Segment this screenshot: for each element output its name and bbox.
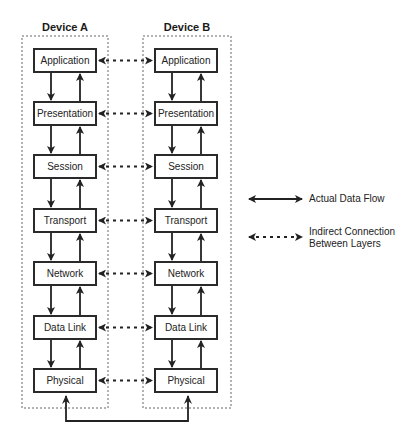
device-a-title: Device A (20, 21, 110, 33)
device-b-layer-data-link: Data Link (154, 315, 218, 340)
device-a-layer-transport: Transport (33, 208, 97, 233)
layer-label: Physical (167, 375, 204, 386)
legend-indirect-line1: Indirect Connection (309, 226, 395, 238)
device-b-layer-session: Session (154, 154, 218, 179)
layer-label: Presentation (37, 108, 93, 119)
device-b-layer-network: Network (154, 261, 218, 286)
layer-label: Application (162, 55, 211, 66)
device-b-layer-presentation: Presentation (154, 101, 218, 126)
legend-indirect-line2: Between Layers (309, 238, 395, 250)
layer-label: Transport (165, 215, 207, 226)
layer-label: Session (47, 161, 83, 172)
device-a-layer-application: Application (33, 48, 97, 73)
device-a-layer-physical: Physical (33, 368, 97, 393)
layer-label: Network (168, 268, 205, 279)
layer-label: Presentation (158, 108, 214, 119)
layer-label: Application (41, 55, 90, 66)
device-a-layer-presentation: Presentation (33, 101, 97, 126)
layer-label: Session (168, 161, 204, 172)
device-b-layer-application: Application (154, 48, 218, 73)
layer-label: Physical (46, 375, 83, 386)
layer-label: Network (47, 268, 84, 279)
device-b-title: Device B (142, 21, 232, 33)
layer-label: Transport (44, 215, 86, 226)
legend-indirect-connection-label: Indirect Connection Between Layers (309, 226, 395, 250)
device-a-layer-network: Network (33, 261, 97, 286)
device-a-layer-data-link: Data Link (33, 315, 97, 340)
device-b-layer-transport: Transport (154, 208, 218, 233)
device-b-layer-physical: Physical (154, 368, 218, 393)
device-a-layer-session: Session (33, 154, 97, 179)
layer-label: Data Link (165, 322, 207, 333)
layer-label: Data Link (44, 322, 86, 333)
legend-actual-flow-label: Actual Data Flow (309, 193, 385, 205)
